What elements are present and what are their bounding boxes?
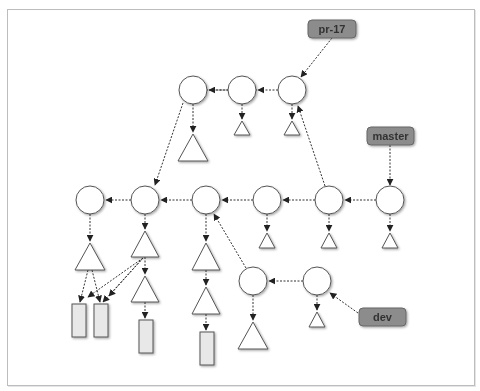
commit-node[interactable] [303,267,331,295]
ref-label: master [372,130,409,142]
tree-node[interactable] [178,134,208,161]
tree-node[interactable] [192,287,220,314]
commit-node[interactable] [253,186,281,214]
edge-t1-m2 [155,103,183,185]
commit-node[interactable] [239,267,267,295]
ref-dev[interactable]: dev [359,308,406,326]
tree-node[interactable] [131,276,159,302]
blob-node[interactable] [200,332,214,365]
tree-node[interactable] [309,312,325,327]
tree-node[interactable] [75,243,105,270]
commit-node[interactable] [76,186,104,214]
commit-node[interactable] [228,76,256,104]
edge-mt1-b2 [92,270,100,302]
commit-node[interactable] [278,76,306,104]
commit-graph-diagram: pr-17 master dev [0,0,480,391]
tree-node[interactable] [321,233,337,248]
commits [76,76,404,295]
edge-d1-m3 [214,214,246,268]
tree-node[interactable] [234,121,250,135]
ref-pr-17[interactable]: pr-17 [308,20,356,38]
trees [75,121,398,349]
tree-node[interactable] [382,233,398,248]
commit-node[interactable] [192,186,220,214]
tree-node[interactable] [192,243,220,270]
ref-master[interactable]: master [367,127,414,145]
blob-node[interactable] [94,304,108,337]
tree-node[interactable] [131,231,159,257]
commit-node[interactable] [376,186,404,214]
edge-dev-d2 [330,293,358,313]
commit-node[interactable] [315,186,343,214]
tree-node[interactable] [259,233,275,248]
ref-label: pr-17 [319,23,346,35]
commit-node[interactable] [179,76,207,104]
edge-pr17-t3 [301,38,332,77]
blob-node[interactable] [139,320,153,353]
edge-m5-t3 [298,106,325,186]
edge-mt1-b1 [80,270,88,302]
tree-node[interactable] [284,121,300,135]
ref-label: dev [373,311,393,323]
commit-node[interactable] [131,186,159,214]
tree-node[interactable] [238,322,268,349]
blob-node[interactable] [72,304,86,337]
